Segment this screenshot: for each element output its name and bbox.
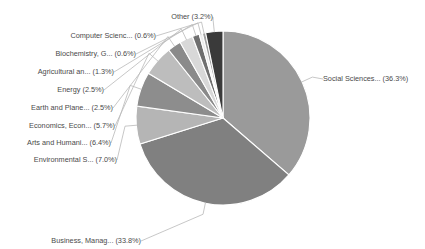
pie-chart-figure: Social Sciences... (36.3%)Business, Mana… xyxy=(0,0,425,249)
slice-label: Social Sciences... (36.3%) xyxy=(323,74,408,83)
pie-slices-group xyxy=(136,31,310,205)
slice-label: Environmental S... (7.0%) xyxy=(34,155,117,164)
leader-line xyxy=(301,77,323,82)
pie-chart-canvas: Social Sciences... (36.3%)Business, Mana… xyxy=(0,0,425,249)
slice-label: Computer Scienc... (0.6%) xyxy=(70,31,156,40)
leader-line xyxy=(213,17,214,32)
slice-label: Earth and Plane... (2.5%) xyxy=(31,103,113,112)
slice-label: Business, Manag... (33.8%) xyxy=(51,236,141,245)
slice-label: Agricultural an... (1.3%) xyxy=(38,67,114,76)
slice-label: Other (3.2%) xyxy=(171,12,213,21)
leader-line xyxy=(156,22,204,36)
leader-line xyxy=(141,202,206,241)
slice-label: Arts and Humani... (6.4%) xyxy=(27,138,111,147)
leader-line xyxy=(117,125,137,160)
slice-label: Energy (2.5%) xyxy=(57,85,104,94)
slice-label: Economics, Econ... (5.7%) xyxy=(29,121,115,130)
slice-label: Biochemistry, G... (0.6%) xyxy=(55,49,136,58)
